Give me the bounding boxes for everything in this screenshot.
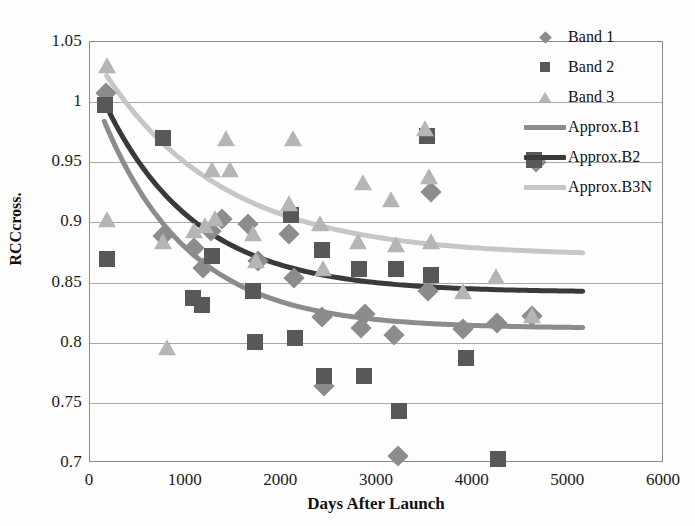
data-point-band-3	[387, 236, 405, 252]
y-tick-label: 1.05	[51, 31, 82, 51]
y-tick-label: 1	[73, 91, 82, 111]
x-tick-label: 5000	[550, 470, 584, 490]
data-point-band-2	[194, 297, 210, 313]
data-point-band-3	[422, 233, 440, 249]
legend-item-label: Approx.B2	[568, 148, 640, 166]
legend-item-label: Band 2	[568, 58, 614, 76]
data-point-band-3	[280, 196, 298, 212]
data-point-band-3	[217, 131, 235, 147]
data-point-band-2	[99, 251, 115, 267]
legend-triangle-icon	[522, 92, 568, 102]
data-point-band-3	[487, 268, 505, 284]
legend-key-swatch	[540, 62, 550, 72]
legend-item[interactable]: Approx.B2	[522, 142, 690, 172]
legend-key-swatch	[539, 92, 551, 102]
y-tick-label: 0.85	[51, 272, 82, 292]
legend-line-icon	[522, 155, 568, 160]
x-tick-label: 4000	[455, 470, 489, 490]
legend-item[interactable]: Band 2	[522, 52, 690, 82]
data-point-band-3	[354, 174, 372, 190]
legend-item[interactable]: Approx.B3N	[522, 172, 690, 202]
chart-legend: Band 1Band 2Band 3Approx.B1Approx.B2Appr…	[522, 22, 690, 202]
data-point-band-2	[287, 330, 303, 346]
data-point-band-2	[247, 334, 263, 350]
legend-item[interactable]: Band 1	[522, 22, 690, 52]
legend-item-label: Approx.B1	[568, 118, 640, 136]
data-point-band-2	[490, 451, 506, 467]
y-tick-label: 0.75	[51, 392, 82, 412]
x-tick-label: 6000	[646, 470, 680, 490]
data-point-band-2	[245, 283, 261, 299]
data-point-band-2	[316, 368, 332, 384]
x-axis-tick-labels: 0100020003000400050006000	[89, 470, 663, 496]
data-point-band-3	[311, 215, 329, 231]
x-tick-label: 0	[85, 470, 94, 490]
data-point-band-2	[388, 261, 404, 277]
y-axis-tick-labels: 0.70.750.80.850.90.9511.05	[18, 41, 82, 462]
chart-container: RCCcross. 0.70.750.80.850.90.9511.05 010…	[0, 0, 695, 526]
y-tick-label: 0.8	[60, 332, 82, 352]
data-point-band-2	[155, 130, 171, 146]
data-point-band-3	[154, 233, 172, 249]
fit-curve-approx-b2	[104, 102, 582, 291]
data-point-band-3	[382, 191, 400, 207]
y-tick-label: 0.95	[51, 151, 82, 171]
data-point-band-2	[356, 368, 372, 384]
data-point-band-2	[204, 248, 220, 264]
data-point-band-3	[416, 120, 434, 136]
data-point-band-3	[206, 210, 224, 226]
fit-curve-approx-b3n	[107, 76, 583, 253]
x-tick-label: 1000	[168, 470, 202, 490]
data-point-band-3	[523, 307, 541, 323]
data-point-band-2	[351, 261, 367, 277]
legend-item-label: Band 1	[568, 28, 614, 46]
data-point-band-3	[158, 339, 176, 355]
legend-item[interactable]: Band 3	[522, 82, 690, 112]
legend-diamond-icon	[522, 33, 568, 42]
x-tick-label: 3000	[359, 470, 393, 490]
x-axis-label: Days After Launch	[89, 494, 663, 514]
data-point-band-3	[284, 131, 302, 147]
data-point-band-3	[98, 211, 116, 227]
data-point-band-3	[98, 57, 116, 73]
data-point-band-2	[423, 267, 439, 283]
data-point-band-3	[247, 252, 265, 268]
x-tick-label: 2000	[263, 470, 297, 490]
legend-item[interactable]: Approx.B1	[522, 112, 690, 142]
legend-key-swatch	[539, 31, 552, 44]
data-point-band-2	[458, 350, 474, 366]
data-point-band-3	[203, 161, 221, 177]
legend-key-swatch	[524, 155, 566, 160]
data-point-band-2	[391, 403, 407, 419]
legend-key-swatch	[524, 185, 566, 190]
legend-line-icon	[522, 125, 568, 130]
y-tick-label: 0.7	[60, 452, 82, 472]
legend-item-label: Band 3	[568, 88, 614, 106]
data-point-band-3	[314, 261, 332, 277]
data-point-band-3	[221, 161, 239, 177]
data-point-band-2	[97, 97, 113, 113]
data-point-band-3	[420, 168, 438, 184]
legend-key-swatch	[524, 125, 566, 130]
data-point-band-3	[349, 233, 367, 249]
legend-item-label: Approx.B3N	[568, 178, 652, 196]
legend-square-icon	[522, 62, 568, 72]
y-tick-label: 0.9	[60, 211, 82, 231]
data-point-band-3	[454, 283, 472, 299]
data-point-band-3	[244, 226, 262, 242]
data-point-band-2	[314, 242, 330, 258]
legend-line-icon	[522, 185, 568, 190]
